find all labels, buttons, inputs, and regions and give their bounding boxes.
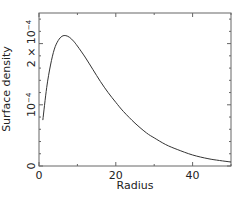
series-line bbox=[43, 36, 231, 162]
chart: 02040 010−42 × 10−4 Radius Surface densi… bbox=[0, 0, 240, 206]
y-axis-ticks: 010−42 × 10−4 bbox=[25, 19, 231, 169]
x-tick-label: 0 bbox=[36, 169, 43, 182]
y-tick-label: 2 × 10−4 bbox=[25, 19, 38, 67]
y-tick-label: 10−4 bbox=[25, 92, 38, 117]
x-tick-label: 40 bbox=[186, 169, 200, 182]
y-axis-label: Surface density bbox=[0, 46, 13, 132]
y-tick-label: 0 bbox=[25, 163, 38, 170]
x-axis-label: Radius bbox=[117, 179, 154, 192]
x-axis-ticks: 02040 bbox=[36, 13, 232, 182]
